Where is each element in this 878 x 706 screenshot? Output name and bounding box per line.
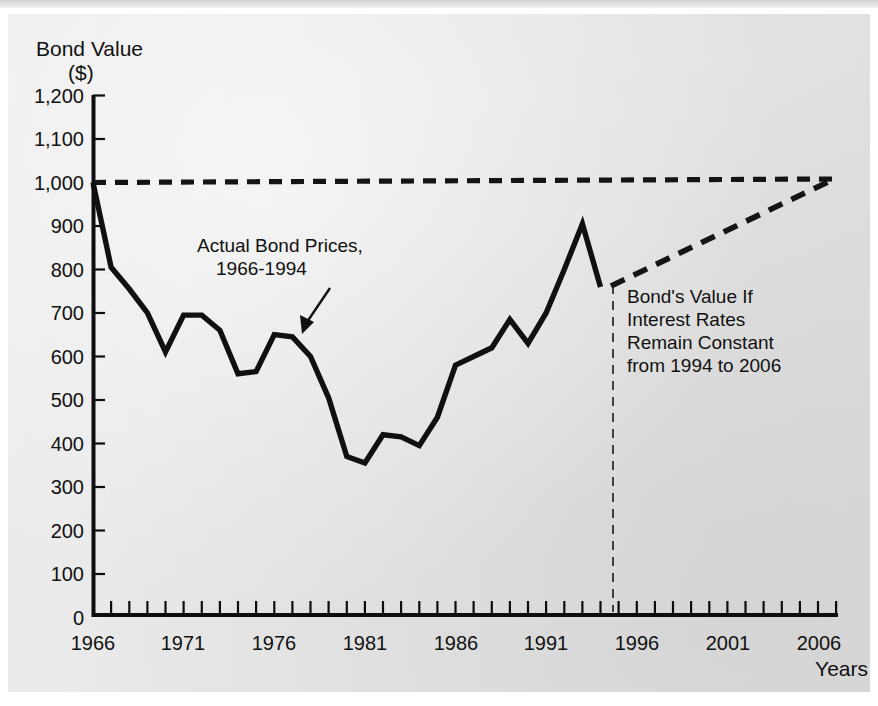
projection-series-line — [611, 180, 832, 286]
x-tick-label: 1996 — [615, 632, 660, 654]
actual-prices-annotation-arrowhead — [300, 315, 314, 334]
x-tick-label: 1981 — [343, 632, 388, 654]
projection-annotation-line2: Interest Rates — [627, 309, 745, 330]
y-tick-label: 500 — [51, 389, 84, 411]
y-tick-label: 1,100 — [34, 128, 84, 150]
y-tick-label: 100 — [51, 563, 84, 585]
x-tick-label: 2006 — [797, 632, 842, 654]
x-axis-ticks — [111, 601, 836, 615]
x-tick-label: 1976 — [252, 632, 297, 654]
x-tick-label: 1966 — [71, 632, 116, 654]
y-tick-label: 700 — [51, 302, 84, 324]
x-axis-title: Years — [815, 657, 868, 680]
chart-page: Bond Value ($) Years 1,200 1,100 1,000 9… — [0, 0, 878, 706]
y-tick-label: 1,000 — [34, 172, 84, 194]
x-tick-label: 1991 — [524, 632, 569, 654]
actual-prices-annotation-line2: 1966-1994 — [216, 258, 307, 279]
actual-prices-series-line — [93, 183, 601, 464]
y-tick-label: 600 — [51, 346, 84, 368]
y-tick-label: 1,200 — [34, 85, 84, 107]
y-tick-label: 400 — [51, 433, 84, 455]
projection-annotation-line4: from 1994 to 2006 — [627, 355, 781, 376]
y-tick-label: 300 — [51, 476, 84, 498]
projection-annotation-line3: Remain Constant — [627, 332, 775, 353]
x-tick-label: 2001 — [706, 632, 751, 654]
x-tick-label: 1971 — [161, 632, 206, 654]
actual-prices-annotation-line1: Actual Bond Prices, — [197, 235, 363, 256]
y-tick-label: 800 — [51, 259, 84, 281]
par-value-reference-line — [93, 179, 832, 183]
projection-annotation-line1: Bond's Value If — [627, 286, 754, 307]
x-tick-label: 1986 — [434, 632, 479, 654]
y-axis-title: Bond Value — [36, 37, 143, 60]
y-tick-label: 900 — [51, 215, 84, 237]
y-axis-unit: ($) — [68, 61, 94, 84]
y-tick-label: 0 — [73, 607, 84, 629]
bond-value-line-chart: Bond Value ($) Years 1,200 1,100 1,000 9… — [0, 0, 878, 706]
y-tick-label: 200 — [51, 520, 84, 542]
